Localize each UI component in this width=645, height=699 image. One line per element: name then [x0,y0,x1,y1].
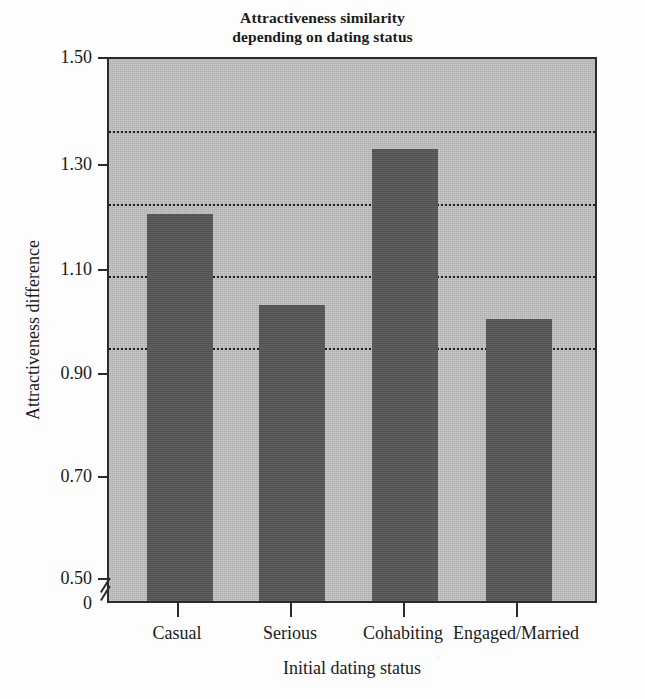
xtick-mark-serious [290,603,292,617]
y-axis-break-icon [100,581,118,603]
ytick-mark-1-50 [98,57,107,59]
ytick-label-1-30: 1.30 [42,155,92,173]
bar-chart-figure: Attractiveness similarity depending on d… [0,0,645,699]
ytick-mark-1-10 [98,269,107,271]
bar-cohabiting[interactable] [372,149,438,601]
ytick-text: 1.10 [61,259,93,279]
xtick-label-casual: Casual [117,622,237,644]
xtick-mark-engaged-married [516,603,518,617]
chart-title: Attractiveness similarity depending on d… [0,8,645,46]
ytick-label-1-50: 1.50 [42,48,92,66]
plot-area [107,57,597,603]
chart-title-line-2: depending on dating status [0,27,645,46]
ytick-label-0-70: 0.70 [42,467,92,485]
bar-casual[interactable] [147,214,213,601]
x-axis-title: Initial dating status [107,657,597,679]
y-axis-title: Attractiveness difference [22,57,44,603]
ytick-mark-0-50 [98,578,107,580]
bar-serious[interactable] [259,305,325,601]
ytick-text: 1.50 [61,47,93,67]
ytick-label-origin: 0 [42,594,92,612]
ytick-mark-0-90 [98,373,107,375]
bar-engaged-married[interactable] [486,319,552,601]
xtick-label-engaged-married: Engaged/Married [436,622,596,644]
ytick-mark-0-70 [98,476,107,478]
ytick-text: 0.50 [61,568,93,588]
ytick-text: 0 [83,593,92,613]
ytick-text: 0.70 [61,466,93,486]
xtick-mark-cohabiting [403,603,405,617]
ytick-text: 0.90 [61,363,93,383]
ytick-label-1-10: 1.10 [42,260,92,278]
ytick-label-0-90: 0.90 [42,364,92,382]
ytick-text: 1.30 [61,154,93,174]
gridline-1-10 [109,204,595,206]
chart-title-line-1: Attractiveness similarity [0,8,645,27]
gridline-1-30 [109,131,595,133]
xtick-mark-casual [177,603,179,617]
ytick-label-0-50: 0.50 [42,569,92,587]
ytick-mark-1-30 [98,164,107,166]
xtick-label-serious: Serious [230,622,350,644]
